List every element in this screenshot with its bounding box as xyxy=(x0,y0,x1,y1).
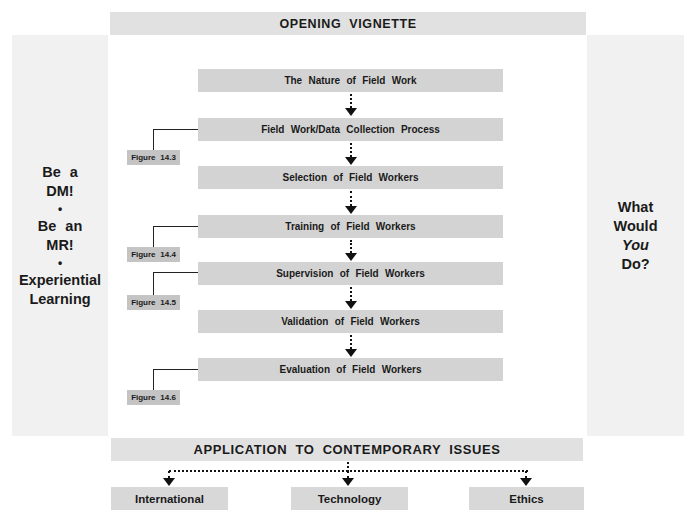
step-nature-of-field-work: The Nature of Field Work xyxy=(198,69,503,92)
figure-14-6-label[interactable]: Figure 14.6 xyxy=(127,390,180,405)
step-data-collection-process: Field Work/Data Collection Process xyxy=(198,118,503,141)
figure-connector-line xyxy=(153,226,198,248)
left-panel-features: Be a DM! • Be an MR! • Experiential Lear… xyxy=(12,35,108,436)
figure-connector-line xyxy=(153,272,198,296)
step-validation: Validation of Field Workers xyxy=(198,310,503,333)
issue-technology: Technology xyxy=(291,487,408,510)
wwyd-line3: You xyxy=(622,236,649,255)
bullet-separator: • xyxy=(58,255,62,271)
wwyd-line2: Would xyxy=(613,217,657,236)
step-selection: Selection of Field Workers xyxy=(198,166,503,189)
application-contemporary-issues-banner: APPLICATION TO CONTEMPORARY ISSUES xyxy=(111,438,583,461)
step-supervision: Supervision of Field Workers xyxy=(198,262,503,285)
step-evaluation: Evaluation of Field Workers xyxy=(198,358,503,381)
figure-connector-line xyxy=(153,129,198,151)
step-training: Training of Field Workers xyxy=(198,215,503,238)
experiential-learning-line2: Learning xyxy=(29,290,90,309)
issue-ethics: Ethics xyxy=(469,487,584,510)
be-a-dm-line1: Be a xyxy=(42,163,78,182)
wwyd-line4: Do? xyxy=(621,255,649,274)
figure-14-3-label[interactable]: Figure 14.3 xyxy=(127,150,180,165)
figure-14-5-label[interactable]: Figure 14.5 xyxy=(127,295,180,310)
right-panel-what-would-you-do: What Would You Do? xyxy=(587,35,684,436)
be-a-dm-line2: DM! xyxy=(46,182,73,201)
figure-connector-line xyxy=(153,369,198,391)
bullet-separator: • xyxy=(58,201,62,217)
be-an-mr-line1: Be an xyxy=(38,217,83,236)
opening-vignette-banner: OPENING VIGNETTE xyxy=(110,12,586,35)
experiential-learning-line1: Experiential xyxy=(19,271,101,290)
figure-14-4-label[interactable]: Figure 14.4 xyxy=(127,247,180,262)
issue-international: International xyxy=(111,487,228,510)
wwyd-line1: What xyxy=(618,198,653,217)
be-an-mr-line2: MR! xyxy=(46,236,73,255)
